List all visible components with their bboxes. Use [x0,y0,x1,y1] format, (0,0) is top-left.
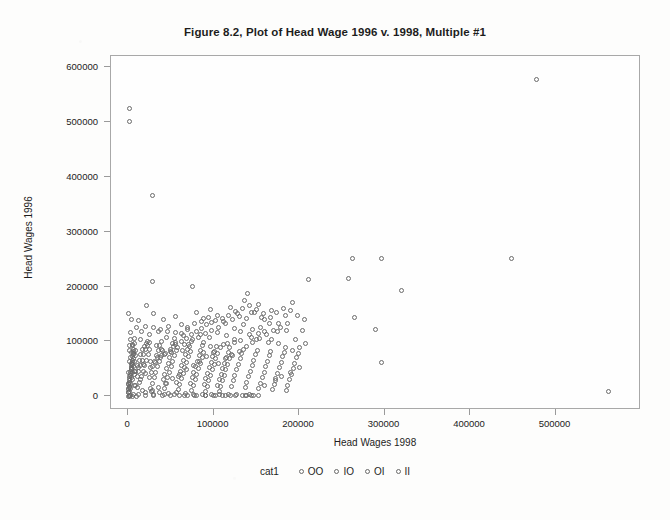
x-tick-mark [555,409,556,415]
data-point [147,347,152,352]
legend-entry-ii[interactable]: II [396,466,411,477]
x-tick-label: 200000 [282,418,314,429]
data-point [208,373,213,378]
x-tick-label: 400000 [453,418,485,429]
data-point [350,256,355,261]
data-point [147,332,152,337]
chart-page: Figure 8.2, Plot of Head Wage 1996 v. 19… [0,0,670,520]
data-point [276,341,281,346]
data-point [158,327,163,332]
data-point [134,325,139,330]
data-point [269,337,274,342]
data-point [205,384,210,389]
data-point [170,359,175,364]
data-point [352,315,357,320]
data-point [290,348,295,353]
data-point [182,393,187,398]
open-circle-icon [396,469,401,474]
data-point [127,359,132,364]
data-point [162,386,167,391]
y-tick-mark [104,340,110,341]
legend-entry-label: IO [343,466,354,477]
data-point [184,360,189,365]
legend-entry-io[interactable]: IO [334,466,354,477]
legend-entry-label: OI [374,466,385,477]
data-point [139,374,144,379]
legend-entry-oo[interactable]: OO [299,466,324,477]
data-point [256,302,261,307]
data-point [262,383,267,388]
data-point [249,393,254,398]
data-point [287,377,292,382]
data-point [192,321,197,326]
data-point [179,331,184,336]
y-tick-label: 400000 [66,170,98,181]
data-point [244,380,249,385]
data-point [186,354,191,359]
data-point [232,340,237,345]
data-point [194,310,199,315]
data-point [196,335,201,340]
data-point [141,362,146,367]
data-point [172,392,177,397]
legend: cat1 OOIOOIII [0,466,670,477]
data-point [281,306,286,311]
data-point [260,375,265,380]
data-point [241,322,246,327]
data-point [162,392,167,397]
data-point [196,366,201,371]
y-tick-label: 0 [93,390,98,401]
data-point [148,359,153,364]
data-point [238,338,243,343]
data-point [190,284,195,289]
data-point [297,345,302,350]
x-tick-mark [127,409,128,415]
data-point [239,351,244,356]
data-point [179,376,184,381]
data-point [240,306,245,311]
data-point [261,311,266,316]
x-tick-label: 100000 [197,418,229,429]
data-point [173,330,178,335]
data-point [290,300,295,305]
data-point [150,279,155,284]
data-point [203,331,208,336]
data-point [147,340,152,345]
data-point [233,393,238,398]
data-point [263,364,268,369]
x-tick-mark [384,409,385,415]
data-point [306,277,311,282]
data-point [606,389,611,394]
data-point [277,365,282,370]
data-point [166,324,171,329]
data-point [295,313,300,318]
data-point [274,310,279,315]
data-point [234,367,239,372]
legend-entry-label: OO [308,466,324,477]
x-tick-label: 300000 [368,418,400,429]
y-tick-label: 300000 [66,225,98,236]
data-point [229,352,234,357]
chart-title: Figure 8.2, Plot of Head Wage 1996 v. 19… [0,26,670,38]
data-point [253,352,258,357]
data-point [262,370,267,375]
data-point [143,393,148,398]
x-tick-mark [469,409,470,415]
data-point [206,315,211,320]
data-point [282,350,287,355]
data-point [159,339,164,344]
data-point [228,305,233,310]
data-point [141,369,146,374]
data-point [241,347,246,352]
data-point [146,352,151,357]
legend-entry-oi[interactable]: OI [365,466,385,477]
data-point [216,361,221,366]
data-point [255,348,260,353]
data-point [169,364,174,369]
data-point [296,351,301,356]
data-point [200,355,205,360]
data-point [134,394,139,399]
data-point [534,77,539,82]
data-point [221,342,226,347]
y-tick-mark [104,231,110,232]
